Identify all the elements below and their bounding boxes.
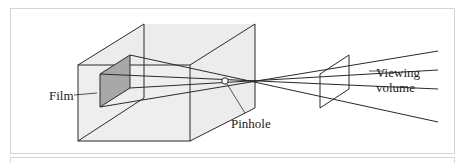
viewing-volume-frustum — [320, 55, 349, 108]
viewing-volume-label-line2: volume — [376, 80, 415, 95]
film-label: Film — [49, 88, 74, 103]
viewing-volume-label-line1: Viewing — [376, 65, 420, 80]
pinhole-label: Pinhole — [231, 116, 271, 131]
pinhole-icon — [222, 78, 228, 84]
pinhole-camera-diagram: Film Pinhole Viewing volume — [0, 0, 465, 163]
